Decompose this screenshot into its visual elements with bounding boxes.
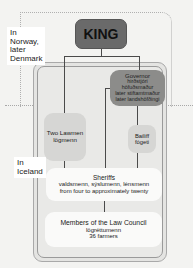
connector-king-horizontal xyxy=(64,56,140,57)
connector-governor-sheriffs xyxy=(105,88,106,168)
iceland-label: In Iceland xyxy=(14,157,46,178)
connector-sheriffs-council xyxy=(104,201,105,212)
lawmen-term: lögmenn xyxy=(53,137,77,144)
iceland-label-line: Iceland xyxy=(17,168,43,177)
sheriffs-terms: valdsmenn, sýslumenn, lénsmenn xyxy=(59,181,149,188)
bailiff-term: fógeti xyxy=(135,139,149,145)
connector-lawmen-sheriffs xyxy=(64,161,65,168)
connector-governor-bailiff xyxy=(137,106,138,125)
norway-label: In Norway, later Denmark xyxy=(7,27,45,65)
king-title: KING xyxy=(84,26,119,42)
norway-label-line: Denmark xyxy=(10,55,42,64)
sheriffs-title: Sheriffs xyxy=(93,175,115,182)
law-council-node: Members of the Law Council lögréttumenn … xyxy=(45,212,162,247)
connector-king-lawmen xyxy=(64,56,65,113)
sheriffs-node: Sheriffs valdsmenn, sýslumenn, lénsmenn … xyxy=(46,168,162,201)
connector-bailiff-sheriffs xyxy=(137,153,138,168)
king-node: KING xyxy=(75,19,127,49)
governor-term: later landshöfðingi xyxy=(116,97,160,103)
sheriffs-count: from four to approximately twenty xyxy=(60,188,149,195)
governor-node: Governor hirðstjóri höfuðsmaður later st… xyxy=(110,70,165,106)
lawmen-node: Two Lawmen lögmenn xyxy=(44,113,86,161)
law-council-count: 36 farmers xyxy=(89,233,118,239)
law-council-title: Members of the Law Council xyxy=(60,219,146,227)
bailiff-node: Bailiff fógeti xyxy=(128,125,156,153)
connector-king-governor xyxy=(139,56,140,70)
